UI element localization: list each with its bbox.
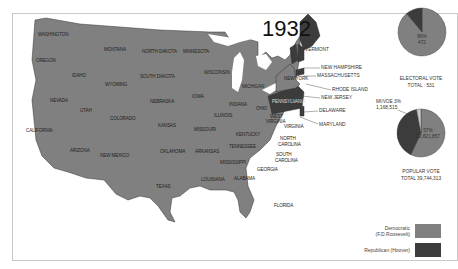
ev-dem-count: 472	[418, 40, 426, 45]
label-north-dakota: NORTH DAKOTA	[142, 49, 178, 54]
label-washington: WASHINGTON	[38, 32, 68, 37]
callout-vermont: VERMONT	[305, 47, 329, 52]
callout-maryland: MARYLAND	[319, 122, 346, 127]
label-wyoming: WYOMING	[105, 82, 128, 87]
label-alabama: ALABAMA	[234, 176, 256, 181]
pv-dem-pct: 57%	[423, 128, 433, 133]
legend-democratic-line2: (F.D.Roosevelt)	[376, 231, 410, 237]
label-virginia: VIRGINIA	[284, 124, 304, 129]
label-missouri: MISSOURI	[194, 127, 216, 132]
label-nebraska: NEBRASKA	[150, 99, 175, 104]
legend-democratic-label: Democratic (F.D.Roosevelt)	[376, 225, 410, 237]
pv-other-label: MI/VOE 3%	[376, 99, 402, 104]
label-california: CALIFORNIA	[26, 128, 54, 133]
page-title: 1932	[262, 16, 311, 42]
pv-dem-count: 22,821,857	[416, 134, 440, 139]
legend-democratic-swatch	[415, 224, 441, 238]
label-iowa: IOWA	[192, 94, 205, 99]
ev-label: ELECTORAL VOTE	[400, 76, 443, 81]
label-new-york: NEW YORK	[284, 76, 309, 81]
label-texas: TEXAS	[156, 184, 171, 189]
ev-dem-pct: 89%	[417, 34, 427, 39]
label-ohio: OHIO	[256, 106, 268, 111]
label-south-carolina-2: CAROLINA	[275, 158, 299, 163]
label-michigan: MICHIGAN	[242, 84, 264, 89]
callout-delaware: DELAWARE	[319, 108, 346, 113]
label-montana: MONTANA	[104, 47, 127, 52]
label-south-dakota: SOUTH DAKOTA	[140, 74, 176, 79]
pv-label: POPULAR VOTE	[402, 169, 439, 174]
callout-new-jersey: NEW JERSEY	[321, 95, 353, 100]
northeast-callouts: VERMONT NEW HAMPSHIRE MASSACHUSETTS RHOD…	[300, 47, 369, 127]
label-georgia: GEORGIA	[257, 167, 279, 172]
electoral-vote-pie	[398, 8, 446, 56]
label-oregon: OREGON	[36, 58, 56, 63]
label-pennsylvania: PENNSYLVANIA	[272, 99, 306, 104]
label-utah: UTAH	[80, 108, 92, 113]
label-kansas: KANSAS	[158, 123, 176, 128]
callout-massachusetts: MASSACHUSETTS	[317, 73, 360, 78]
label-west-virginia-2: VIRGINIA	[266, 119, 286, 124]
label-south-carolina-1: SOUTH	[276, 152, 292, 157]
popular-vote-pie	[397, 109, 445, 157]
label-idaho: IDAHO	[72, 73, 87, 78]
label-florida: FLORIDA	[274, 203, 294, 208]
label-illinois: ILLINOIS	[214, 113, 232, 118]
legend-republican-label: Republican (Hoover)	[364, 247, 410, 253]
label-arizona: ARIZONA	[70, 148, 91, 153]
label-colorado: COLORADO	[110, 116, 136, 121]
label-tennessee: TENNESSEE	[229, 144, 256, 149]
label-nevada: NEVADA	[50, 98, 69, 103]
state-delaware	[300, 106, 304, 116]
label-mississippi: MISSISSIPPI	[220, 160, 246, 165]
callout-new-hampshire: NEW HAMPSHIRE	[321, 65, 362, 70]
label-louisiana: LOUISIANA	[201, 177, 226, 182]
label-north-carolina-2: CAROLINA	[278, 142, 302, 147]
pv-other-count: 1,168,515	[376, 105, 398, 110]
callout-rhode-island: RHODE ISLAND	[332, 87, 369, 92]
label-new-mexico: NEW MEXICO	[100, 153, 130, 158]
ev-total: TOTAL : 531	[408, 83, 435, 88]
label-minnesota: MINNESOTA	[183, 49, 210, 54]
label-kentucky: KENTUCKY	[236, 132, 260, 137]
label-indiana: INDIANA	[229, 102, 248, 107]
label-wisconsin: WISCONSIN	[204, 70, 230, 75]
pv-total: TOTAL 39,744,313	[401, 176, 442, 181]
label-oklahoma: OKLAHOMA	[160, 149, 186, 154]
label-arkansas: ARKANSAS	[195, 149, 219, 154]
label-north-carolina-1: NORTH	[280, 136, 296, 141]
legend-republican-swatch	[415, 243, 441, 257]
